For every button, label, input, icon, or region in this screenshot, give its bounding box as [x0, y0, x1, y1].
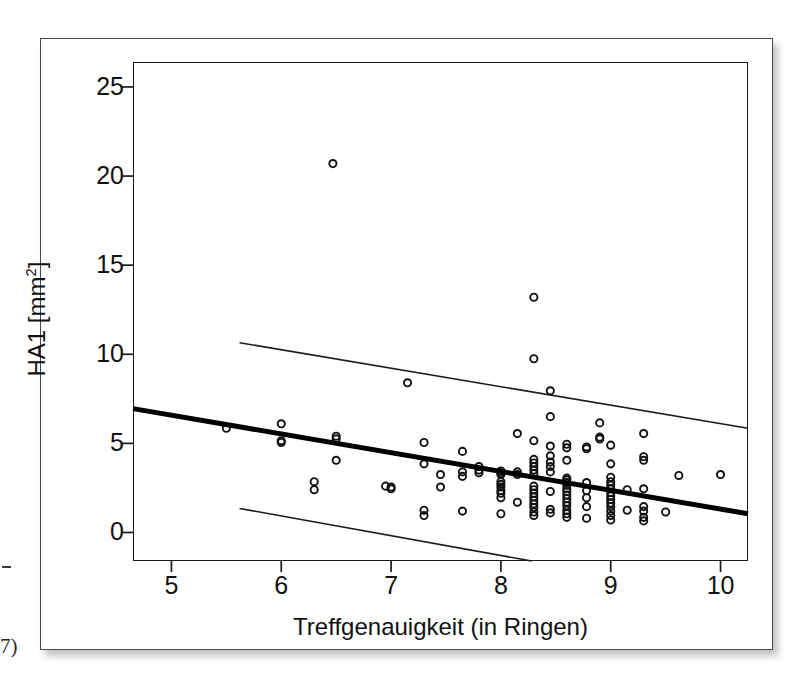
- x-tick-label: 10: [691, 573, 751, 598]
- y-axis-title-exponent: 2: [23, 268, 39, 276]
- x-tick-label: 8: [471, 573, 531, 598]
- y-tick-label: 25: [78, 74, 124, 99]
- y-axis-title-tail: ]: [23, 262, 50, 269]
- y-tick-label: 10: [78, 341, 124, 366]
- y-axis-title-text: HA1 [mm: [23, 276, 50, 376]
- x-tick-label: 7: [361, 573, 421, 598]
- y-tick-label: 20: [78, 163, 124, 188]
- page-margin-dash: [2, 566, 11, 568]
- y-tick-label: 0: [78, 519, 124, 544]
- y-tick-label: 5: [78, 430, 124, 455]
- y-tick-label: 15: [78, 252, 124, 277]
- x-axis-tick-labels: 5678910: [0, 573, 803, 605]
- x-tick-label: 9: [581, 573, 641, 598]
- x-axis-title: Treffgenauigkeit (in Ringen): [133, 613, 748, 641]
- y-axis-title: HA1 [mm2]: [23, 219, 51, 419]
- x-tick-label: 6: [251, 573, 311, 598]
- plot-area: [133, 62, 748, 561]
- x-tick-label: 5: [141, 573, 201, 598]
- page-footnote-marker: 7): [0, 634, 18, 659]
